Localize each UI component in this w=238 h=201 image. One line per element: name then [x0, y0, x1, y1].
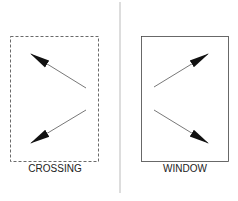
window-arrow-lower-icon: [154, 110, 208, 143]
window-arrow-upper-icon: [154, 54, 208, 87]
window-box: [142, 37, 229, 162]
crossing-arrow-lower-icon: [31, 110, 86, 143]
window-label: WINDOW: [140, 163, 230, 174]
crossing-box: [11, 37, 99, 162]
crossing-label: CROSSING: [10, 163, 100, 174]
crossing-arrow-upper-icon: [31, 54, 86, 88]
